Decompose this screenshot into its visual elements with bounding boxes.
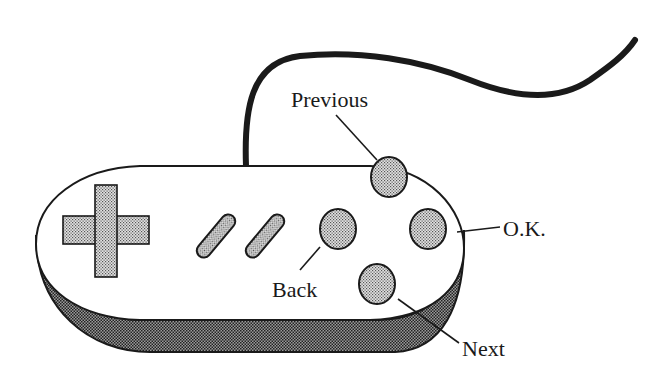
next-button[interactable] [359,264,395,304]
back-button[interactable] [320,209,356,249]
previous-leader-line [336,115,377,160]
next-label: Next [462,336,505,361]
ok-button[interactable] [410,209,446,249]
previous-label: Previous [291,87,368,112]
back-label: Back [272,277,317,302]
controller-diagram: Previous O.K. Back Next [0,0,672,385]
ok-label: O.K. [503,216,546,241]
ok-leader-line [457,227,500,232]
previous-button[interactable] [371,157,407,197]
